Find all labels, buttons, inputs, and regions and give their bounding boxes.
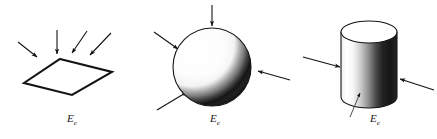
plane-label-subscript: e (74, 119, 77, 127)
ray-icon (72, 31, 87, 53)
panel-plane: Ee (18, 30, 112, 127)
ray-icon (400, 79, 434, 90)
flat-plane-shape (24, 59, 112, 95)
ray-icon (258, 71, 290, 80)
panel-sphere: Ee (154, 5, 290, 127)
sphere-label-subscript: e (217, 119, 220, 127)
figure-canvas: Ee Ee (0, 0, 437, 139)
cylinder-label: Ee (369, 112, 380, 127)
ray-icon (18, 42, 37, 57)
ray-icon (303, 57, 340, 67)
sphere-label: Ee (209, 112, 220, 127)
ray-icon (157, 92, 187, 110)
ray-icon (90, 33, 111, 55)
plane-incident-rays (18, 30, 111, 57)
ray-icon (154, 32, 178, 49)
irradiance-geometry-figure: Ee Ee (0, 0, 437, 139)
panel-cylinder: Ee (303, 21, 434, 127)
cylinder-label-subscript: e (377, 119, 380, 127)
plane-label: Ee (66, 112, 77, 127)
